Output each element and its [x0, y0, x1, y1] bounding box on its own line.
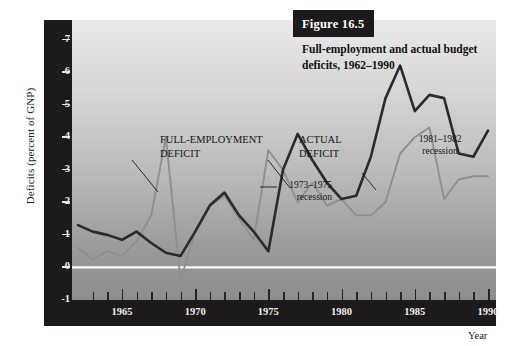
- x-tick-mark: [239, 292, 241, 300]
- x-tick-label: 1975: [248, 306, 288, 317]
- x-tick-mark: [151, 292, 153, 300]
- x-tick-mark: [210, 292, 212, 300]
- series-full-employment-deficit: [78, 66, 488, 256]
- leader-full-employment: [132, 160, 158, 192]
- x-tick-mark: [122, 289, 124, 300]
- x-tick-mark: [473, 292, 475, 300]
- x-tick-label: 1980: [322, 306, 362, 317]
- annotation-actual-line1: ACTUAL: [299, 133, 342, 147]
- x-tick-mark: [386, 292, 388, 300]
- x-tick-mark: [137, 292, 139, 300]
- annotation-recession-7375-line2: recession: [262, 191, 332, 203]
- annotation-recession-8182-line2: recession: [402, 145, 478, 157]
- y-tick-mark: [62, 169, 70, 171]
- x-tick-mark: [459, 292, 461, 300]
- x-tick-mark: [107, 292, 109, 300]
- annotation-actual-deficit: ACTUAL DEFICIT: [299, 133, 342, 160]
- annotation-full-employment: FULL-EMPLOYMENT DEFICIT: [160, 133, 263, 160]
- annotation-recession-1981-1982: 1981–1982 recession: [402, 133, 478, 158]
- x-tick-mark: [356, 292, 358, 300]
- x-tick-mark: [371, 292, 373, 300]
- x-tick-mark: [400, 292, 402, 300]
- y-tick-mark: [62, 234, 70, 236]
- figure-number: Figure 16.5: [302, 17, 364, 31]
- annotation-actual-line2: DEFICIT: [299, 147, 342, 161]
- annotation-full-employment-line1: FULL-EMPLOYMENT: [160, 133, 263, 147]
- x-tick-label: 1985: [395, 306, 435, 317]
- annotation-recession-1973-1975: 1973–1975 recession: [262, 179, 332, 204]
- x-tick-mark: [342, 289, 344, 300]
- x-axis-title: Year: [468, 330, 487, 341]
- x-tick-label: 1990: [468, 306, 508, 317]
- y-tick-mark: [62, 71, 70, 73]
- x-tick-mark: [415, 289, 417, 300]
- figure-title: Full-employment and actual budget defici…: [302, 42, 510, 73]
- x-tick-mark: [254, 292, 256, 300]
- x-tick-mark: [224, 292, 226, 300]
- annotation-recession-8182-line1: 1981–1982: [402, 133, 478, 145]
- y-tick-mark: [62, 201, 70, 203]
- figure-container: Deficits (percent of GNP) FULL-EMPLOYMEN…: [0, 0, 525, 346]
- x-tick-mark: [312, 292, 314, 300]
- y-tick-label: -1: [42, 293, 70, 304]
- x-tick-mark: [181, 292, 183, 300]
- annotation-full-employment-line2: DEFICIT: [160, 147, 263, 161]
- x-tick-mark: [195, 289, 197, 300]
- x-tick-mark: [488, 289, 490, 300]
- x-tick-label: 1970: [175, 306, 215, 317]
- annotation-recession-7375-line1: 1973–1975: [262, 179, 332, 191]
- x-tick-mark: [327, 292, 329, 300]
- x-tick-mark: [444, 292, 446, 300]
- x-tick-mark: [298, 292, 300, 300]
- x-tick-mark: [283, 292, 285, 300]
- figure-number-box: Figure 16.5: [293, 10, 374, 37]
- x-tick-mark: [429, 292, 431, 300]
- y-tick-mark: [62, 39, 70, 41]
- y-tick-mark: [62, 266, 70, 268]
- leader-recession-8182: [362, 173, 376, 190]
- y-tick-mark: [62, 104, 70, 106]
- x-tick-mark: [93, 292, 95, 300]
- x-tick-label: 1965: [102, 306, 142, 317]
- x-tick-mark: [268, 289, 270, 300]
- y-tick-mark: [62, 136, 70, 138]
- y-axis-title: Deficits (percent of GNP): [24, 21, 36, 271]
- x-tick-mark: [166, 292, 168, 300]
